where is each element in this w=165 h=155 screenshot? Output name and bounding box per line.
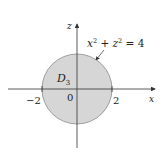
leader-line <box>96 50 104 60</box>
x-axis-label: x <box>149 94 154 104</box>
circle-equation: x2 + z2 = 4 <box>87 37 145 49</box>
z-axis-label: z <box>66 21 72 31</box>
tick-label-neg2: −2 <box>26 95 41 106</box>
tick-label-origin: 0 <box>67 92 73 103</box>
disk-diagram: z x −2 0 2 D3 x2 + z2 = 4 <box>0 0 165 155</box>
tick-label-pos2: 2 <box>113 95 119 106</box>
